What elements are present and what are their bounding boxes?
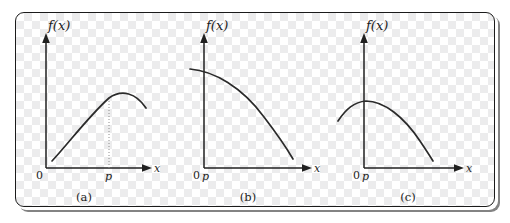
panel-a-y-axis-arrowhead: [42, 33, 50, 43]
panel-c-caption: (c): [400, 190, 415, 204]
panel-b-point-label-p: p: [202, 170, 209, 183]
panel-a-caption: (a): [76, 190, 92, 204]
panel-c: f(x) x 0 p (c): [336, 13, 495, 207]
panel-a-y-axis-label: f(x): [47, 18, 70, 33]
figure-frame: f(x) x 0 p (a) f(x) x 0 p: [15, 12, 495, 207]
panel-a-point-label-p: p: [105, 170, 112, 183]
panel-a-plot: f(x) x 0 p (a): [16, 13, 176, 207]
panel-b-origin-label: 0: [193, 169, 200, 182]
panel-a-x-axis-arrowhead: [142, 164, 152, 172]
panel-b-x-axis-label: x: [314, 162, 321, 175]
panel-b-plot: f(x) x 0 p (b): [176, 13, 336, 207]
panel-c-point-label-p: p: [362, 170, 369, 183]
panel-b-caption: (b): [240, 190, 256, 204]
panel-b: f(x) x 0 p (b): [176, 13, 336, 207]
panel-b-y-axis-arrowhead: [200, 33, 208, 43]
panel-c-curve: [338, 101, 433, 161]
panel-a: f(x) x 0 p (a): [16, 13, 176, 207]
figure-container: f(x) x 0 p (a) f(x) x 0 p: [0, 0, 510, 223]
panel-c-x-axis-label: x: [466, 162, 473, 175]
panel-c-y-axis-label: f(x): [365, 18, 388, 33]
panel-b-curve: [190, 69, 293, 159]
panel-b-x-axis-arrowhead: [302, 164, 312, 172]
panel-a-x-axis-label: x: [154, 162, 161, 175]
panel-c-plot: f(x) x 0 p (c): [336, 13, 495, 207]
panel-b-y-axis-label: f(x): [205, 18, 228, 33]
panel-a-origin-label: 0: [36, 169, 43, 182]
panel-a-curve: [52, 93, 146, 161]
panel-c-origin-label: 0: [353, 169, 360, 182]
panel-c-x-axis-arrowhead: [454, 164, 464, 172]
panel-c-y-axis-arrowhead: [360, 33, 368, 43]
